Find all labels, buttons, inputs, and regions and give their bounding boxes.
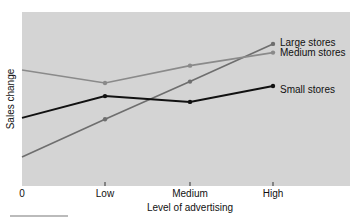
x-tick-label: Low (96, 188, 115, 199)
data-point-marker (271, 50, 275, 54)
data-point-marker (103, 81, 107, 85)
data-point-marker (188, 100, 192, 104)
data-point-marker (188, 79, 192, 83)
data-point-marker (103, 117, 107, 121)
figure-caption-bar (10, 215, 68, 217)
line-chart: 0LowMediumHigh Level of advertising Sale… (0, 0, 363, 220)
x-tick-label: High (263, 188, 284, 199)
x-tick-labels: 0LowMediumHigh (19, 188, 283, 199)
y-axis-title: Sales change (5, 68, 16, 129)
legend-label-small-stores: Small stores (280, 84, 335, 95)
x-axis-title: Level of advertising (147, 202, 233, 213)
x-tick-label: 0 (19, 188, 25, 199)
data-point-marker (188, 63, 192, 67)
x-tick-label: Medium (172, 188, 208, 199)
data-point-marker (103, 94, 107, 98)
data-point-marker (271, 84, 275, 88)
legend-label-medium-stores: Medium stores (280, 47, 346, 58)
data-point-marker (271, 42, 275, 46)
